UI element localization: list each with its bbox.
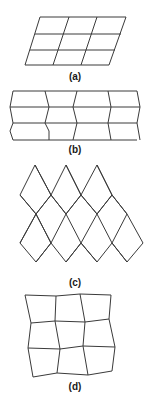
grid-edge [73,91,77,140]
grid-column-edge [25,295,33,377]
grid-edge [109,17,126,65]
grid-edge [137,91,140,140]
grid-edge [10,91,13,140]
grid-edge [81,17,97,65]
grid-column-edge [55,296,60,373]
grid-edge [53,17,69,65]
grid-row-edge [28,346,115,349]
grid-edge [25,17,40,65]
panel-c-diamond-lattice [20,165,143,262]
rhombus-edge [20,195,51,243]
rhombus-edge [81,195,97,214]
rhombus-edge [51,195,81,243]
grid-column-edge [80,294,88,375]
grid-row-edge [33,371,112,377]
rhombus-edge [112,214,127,243]
rhombus-edge [112,195,127,214]
rhombus-edge [97,195,112,214]
grid-column-edge [109,295,115,371]
panel-c-label: (c) [55,277,95,289]
figure-canvas [0,0,147,394]
panel-a-parallelogram-grid [25,17,126,65]
rhombus-edge [20,214,36,243]
rhombus-edge [97,165,112,195]
rhombus-edge [36,214,51,262]
panel-b-label: (b) [55,144,95,156]
grid-edge [45,91,49,140]
panel-a-label: (a) [55,71,95,83]
panel-d-label: (d) [55,381,95,393]
rhombus-edge [66,195,81,214]
grid-edge [108,91,111,140]
panel-b-zigzag-grid [10,91,140,140]
panel-d-distorted-grid [25,294,115,377]
grid-row-edge [31,319,109,323]
rhombus-edge [20,165,143,262]
rhombus-edge [36,195,51,214]
grid-row-edge [25,294,111,296]
rhombus-edge [51,195,66,214]
